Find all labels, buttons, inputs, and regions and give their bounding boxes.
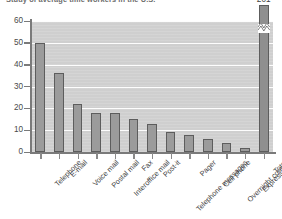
x-axis-category-label: Pager [198,158,218,178]
bar-slot [184,21,194,152]
y-tick-label: 60 [14,16,23,26]
bar-slot: 201 [259,21,269,152]
bar-value-label: 201 [257,0,271,4]
bar[interactable] [73,104,83,152]
bar[interactable] [240,148,250,152]
y-tick-mark [24,21,31,22]
y-tick: 0 [0,147,31,157]
bar[interactable] [166,132,176,152]
y-tick-mark [24,42,31,43]
bar[interactable] [91,113,101,152]
bar-slot [222,21,232,152]
bar[interactable] [184,135,194,152]
y-tick: 30 [0,82,31,92]
y-tick-label: 10 [14,125,23,135]
y-tick-mark [24,108,31,109]
y-tick-label: 0 [18,147,23,157]
bar-slot [240,21,250,152]
y-tick: 60 [0,16,31,26]
bar[interactable] [222,143,232,152]
y-tick-label: 20 [14,103,23,113]
bar[interactable] [203,139,213,152]
y-tick-label: 30 [14,82,23,92]
bar[interactable] [147,124,157,152]
y-tick-mark [24,130,31,131]
bar-slot [129,21,139,152]
bar-slot [73,21,83,152]
bar-slot [147,21,157,152]
bar-slot [35,21,45,152]
x-axis-labels: TelephoneE-mailVoice mailPostal mailInte… [0,158,282,219]
y-tick-mark [24,152,31,153]
x-axis-category-label: E-mail [68,158,89,179]
bar-chart: Study of average time workers in the U.S… [0,0,282,219]
bar[interactable] [110,113,120,152]
bar-slot [203,21,213,152]
y-tick: 20 [0,103,31,113]
axis-break-icon [258,24,270,33]
y-tick-label: 40 [14,60,23,70]
bar[interactable] [54,73,64,152]
y-tick: 50 [0,38,31,48]
bar-slot [166,21,176,152]
bar[interactable] [129,119,139,152]
bar-slot [54,21,64,152]
y-tick-mark [24,64,31,65]
bar-series: 201 [31,21,273,152]
y-tick-label: 50 [14,38,23,48]
bar-slot [110,21,120,152]
y-tick-mark [24,86,31,87]
chart-title: Study of average time workers in the U.S… [6,0,236,4]
bar[interactable] [35,43,45,152]
y-tick: 40 [0,60,31,70]
y-tick: 10 [0,125,31,135]
bar-slot [91,21,101,152]
